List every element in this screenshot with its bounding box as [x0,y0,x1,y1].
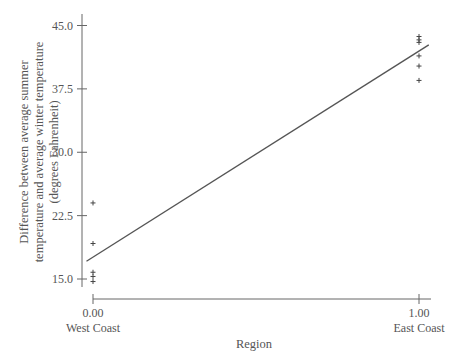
plus-marker [91,274,96,279]
y-tick-label: 22.5 [52,209,73,223]
data-points [91,34,422,284]
x-axis-title: Region [236,337,273,351]
fit-line [86,45,428,261]
plus-marker [417,40,422,45]
y-axis-title-line: temperature and average winter temperatu… [32,41,46,262]
x-tick-category-label: West Coast [66,321,121,335]
y-tick-label: 37.5 [52,82,73,96]
x-tick-label: 0.00 [83,306,104,320]
x-tick-label: 1.00 [409,306,430,320]
plus-marker [91,241,96,246]
plus-marker [417,78,422,83]
plus-marker [91,279,96,284]
x-axis: 0.00West Coast1.00East Coast [66,294,445,335]
plus-marker [417,64,422,69]
regression-line [86,45,428,261]
y-axis-title-line: (degrees Fahrenheit) [47,100,61,203]
plus-marker [91,200,96,205]
y-axis-title-line: Difference between average summer [17,59,31,243]
y-tick-label: 45.0 [52,19,73,33]
y-tick-label: 15.0 [52,272,73,286]
y-axis-title: Difference between average summertempera… [17,41,61,262]
x-tick-category-label: East Coast [394,321,446,335]
scatter-chart: 15.022.530.037.545.0 0.00West Coast1.00E… [0,0,453,358]
plus-marker [417,53,422,58]
